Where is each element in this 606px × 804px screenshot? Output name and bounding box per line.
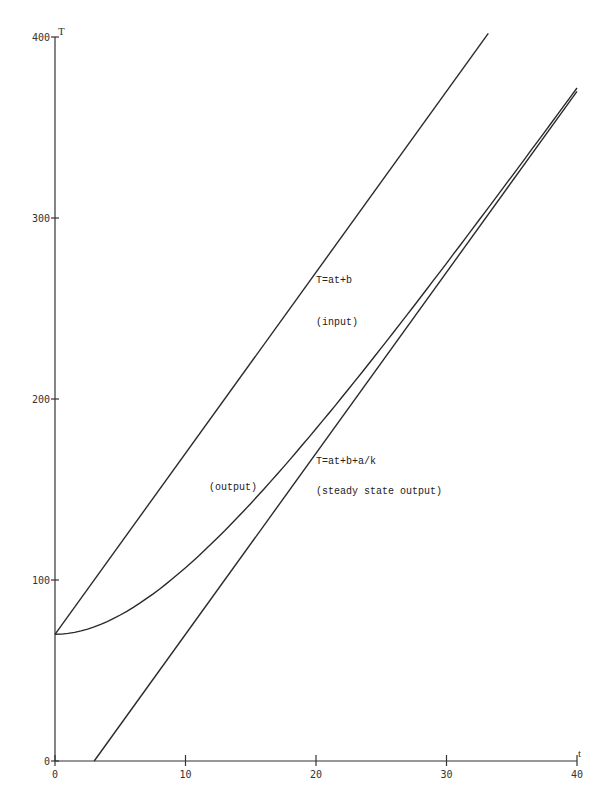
annotation-input-equation: T=at+b <box>316 275 352 286</box>
annotation-input: (input) <box>316 317 358 328</box>
y-tick-label: 200 <box>32 394 50 405</box>
x-axis-label: t <box>578 747 581 759</box>
annotation-output: (output) <box>209 482 257 493</box>
axes <box>55 37 577 761</box>
y-tick-label: 400 <box>32 32 50 43</box>
chart: 0102030400100200300400 T t T=at+b (input… <box>0 0 606 804</box>
series-steady-state-output <box>94 91 577 761</box>
y-tick-label: 300 <box>32 213 50 224</box>
series-input <box>55 33 488 634</box>
x-tick-label: 10 <box>179 769 191 780</box>
x-tick-label: 40 <box>571 769 583 780</box>
x-tick-label: 0 <box>52 769 58 780</box>
x-tick-label: 30 <box>440 769 452 780</box>
y-tick-label: 100 <box>32 575 50 586</box>
x-tick-label: 20 <box>310 769 322 780</box>
annotation-steady: (steady state output) <box>316 486 442 497</box>
y-tick-label: 0 <box>44 756 50 767</box>
annotation-steady-equation: T=at+b+a/k <box>316 456 376 467</box>
series-output <box>55 88 577 634</box>
y-axis-label: T <box>58 25 65 37</box>
curves <box>55 33 577 761</box>
ticks: 0102030400100200300400 <box>32 32 583 780</box>
